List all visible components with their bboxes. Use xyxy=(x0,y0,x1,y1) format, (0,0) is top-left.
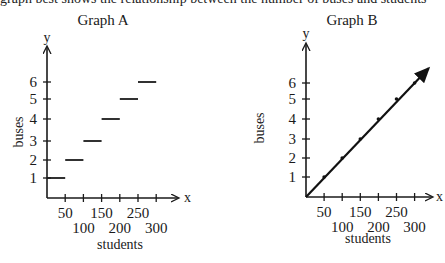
x-tick-label: 200 xyxy=(367,219,390,235)
x-tick-label: 200 xyxy=(109,220,132,236)
graph-a-y-axis-name: y xyxy=(44,30,51,45)
x-tick-label: 150 xyxy=(349,204,372,220)
x-tick-label: 100 xyxy=(331,219,354,235)
x-tick-label: 100 xyxy=(72,220,95,236)
y-tick-label: 5 xyxy=(30,91,38,107)
graph-b-y-label: buses xyxy=(252,112,267,143)
graph-a-x-axis-name: x xyxy=(184,190,191,205)
graph-b-x-ticks: 50100150200250300 xyxy=(317,193,426,235)
y-tick-label: 2 xyxy=(30,152,38,168)
graph-a-x-ticks: 50100150200250300 xyxy=(58,194,168,236)
x-tick-label: 50 xyxy=(58,205,73,221)
data-point xyxy=(377,117,381,121)
y-tick-label: 5 xyxy=(289,91,297,107)
x-tick-label: 250 xyxy=(385,204,408,220)
y-tick-label: 4 xyxy=(289,111,297,127)
graph-b-x-axis-name: x xyxy=(436,189,443,204)
y-tick-label: 6 xyxy=(30,74,38,90)
data-point xyxy=(322,175,326,179)
graph-a-step-segments xyxy=(47,82,156,178)
graph-a-x-label: students xyxy=(97,237,143,252)
y-tick-label: 3 xyxy=(289,131,297,147)
graph-b-y-axis-name: y xyxy=(303,26,310,41)
x-tick-label: 50 xyxy=(317,204,332,220)
graph-a: Graph A y x buses students 5010015020025… xyxy=(11,12,191,252)
graph-b-data-line xyxy=(306,68,429,197)
data-point xyxy=(413,81,417,85)
data-point xyxy=(340,156,344,160)
x-tick-label: 300 xyxy=(403,219,426,235)
x-tick-label: 250 xyxy=(127,205,150,221)
x-tick-label: 150 xyxy=(90,205,113,221)
y-tick-label: 2 xyxy=(289,150,297,166)
y-tick-label: 1 xyxy=(30,170,38,186)
y-tick-label: 4 xyxy=(30,111,38,127)
graph-a-y-label: buses xyxy=(11,116,26,147)
graph-a-title: Graph A xyxy=(77,12,128,28)
y-tick-label: 1 xyxy=(289,169,297,185)
x-tick-label: 300 xyxy=(145,220,168,236)
graph-b: Graph B y x buses students 5010015020025… xyxy=(252,12,443,246)
graph-b-title: Graph B xyxy=(326,12,377,28)
data-point xyxy=(359,137,363,141)
data-point xyxy=(395,97,399,101)
y-tick-label: 3 xyxy=(30,133,38,149)
y-tick-label: 6 xyxy=(289,75,297,91)
